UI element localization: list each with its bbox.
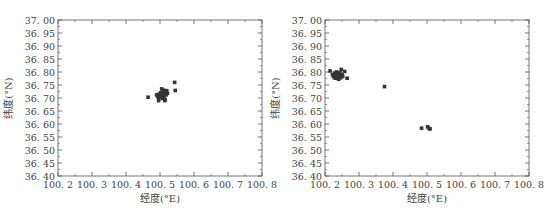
y-tick-label: 36. 50 (25, 145, 55, 156)
y-tick-label: 36. 45 (292, 158, 322, 169)
y-axis-title: 纬度(°N) (2, 77, 14, 119)
y-tick-label: 36. 70 (292, 93, 322, 104)
y-tick-label: 36. 40 (292, 171, 322, 182)
y-tick-label: 36. 55 (292, 132, 322, 143)
x-tick-label: 100. 4 (378, 179, 408, 190)
chart-svg-left: 100. 2100. 3100. 4100. 5100. 6100. 7100.… (0, 0, 279, 215)
x-tick-label: 100. 5 (412, 179, 442, 190)
data-point (383, 85, 387, 89)
y-tick-label: 36. 55 (25, 132, 55, 143)
data-point (420, 126, 424, 130)
x-tick-label: 100. 3 (77, 179, 107, 190)
y-tick-label: 36. 90 (25, 41, 55, 52)
data-point (166, 92, 170, 96)
data-point (157, 99, 161, 103)
x-tick-label: 100. 6 (179, 179, 209, 190)
chart-svg-right: 100. 2100. 3100. 4100. 5100. 6100. 7100.… (267, 0, 546, 215)
x-axis-title: 经度(°E) (140, 192, 180, 204)
y-tick-label: 36. 70 (25, 93, 55, 104)
data-point (340, 68, 344, 72)
data-point (345, 76, 349, 80)
data-point (174, 89, 178, 93)
data-point (173, 81, 177, 85)
y-tick-label: 36. 60 (292, 119, 322, 130)
data-points (146, 81, 177, 103)
data-point (341, 75, 345, 79)
y-tick-label: 36. 50 (292, 145, 322, 156)
data-point (146, 95, 150, 99)
y-tick-label: 36. 80 (25, 67, 55, 78)
y-tick-label: 36. 45 (25, 158, 55, 169)
x-tick-label: 100. 8 (514, 179, 544, 190)
scatter-plot-left: 100. 2100. 3100. 4100. 5100. 6100. 7100.… (0, 0, 279, 215)
y-axis-title: 纬度(°N) (269, 77, 281, 119)
y-tick-label: 36. 65 (25, 106, 55, 117)
x-tick-label: 100. 7 (480, 179, 510, 190)
y-tick-label: 36. 75 (25, 80, 55, 91)
data-points (328, 68, 432, 131)
data-point (163, 98, 167, 102)
x-tick-label: 100. 7 (213, 179, 243, 190)
x-axis-title: 经度(°E) (407, 192, 447, 204)
y-tick-label: 36. 95 (25, 28, 55, 39)
x-tick-label: 100. 4 (111, 179, 141, 190)
y-tick-label: 36. 80 (292, 67, 322, 78)
y-tick-label: 36. 65 (292, 106, 322, 117)
data-point (428, 127, 432, 131)
y-tick-label: 36. 85 (25, 54, 55, 65)
y-tick-label: 37. 00 (25, 15, 55, 26)
y-tick-label: 36. 85 (292, 54, 322, 65)
x-tick-label: 100. 5 (145, 179, 175, 190)
data-point (328, 69, 332, 73)
y-tick-label: 36. 90 (292, 41, 322, 52)
y-tick-label: 36. 40 (25, 171, 55, 182)
y-tick-label: 36. 95 (292, 28, 322, 39)
y-tick-label: 36. 60 (25, 119, 55, 130)
plot-frame (325, 20, 529, 176)
scatter-plot-right: 100. 2100. 3100. 4100. 5100. 6100. 7100.… (267, 0, 546, 215)
y-tick-label: 37. 00 (292, 15, 322, 26)
x-tick-label: 100. 3 (344, 179, 374, 190)
y-tick-label: 36. 75 (292, 80, 322, 91)
x-tick-label: 100. 6 (446, 179, 476, 190)
data-point (343, 70, 347, 74)
